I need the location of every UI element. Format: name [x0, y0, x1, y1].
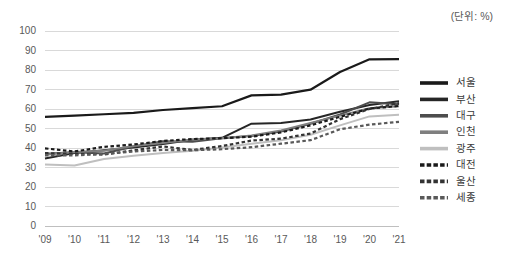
legend-label-대전[interactable]: 대전: [456, 158, 476, 170]
y-axis-tick-label: 80: [25, 64, 37, 75]
legend-label-세종[interactable]: 세종: [456, 191, 476, 203]
x-axis-tick-label: '10: [68, 234, 81, 245]
series-line-서울: [45, 59, 399, 117]
x-axis-tick-label: '11: [98, 234, 111, 245]
legend-label-부산[interactable]: 부산: [456, 93, 476, 105]
x-axis-tick-label: '14: [186, 234, 199, 245]
y-axis-ticks: 0102030405060708090100: [19, 25, 36, 231]
gridlines: [45, 31, 399, 226]
chart-canvas: 0102030405060708090100 '09'10'11'12'13'1…: [0, 0, 507, 265]
x-axis-tick-label: '18: [304, 234, 317, 245]
y-axis-tick-label: 70: [25, 84, 37, 95]
x-axis-tick-label: '20: [363, 234, 376, 245]
legend: 서울부산대구인천광주대전울산세종: [420, 76, 476, 203]
y-axis-tick-label: 90: [25, 45, 37, 56]
legend-label-인천[interactable]: 인천: [456, 125, 476, 137]
x-axis-tick-label: '09: [38, 234, 51, 245]
legend-label-대구[interactable]: 대구: [456, 109, 476, 121]
y-axis-tick-label: 30: [25, 162, 37, 173]
x-axis-ticks: '09'10'11'12'13'14'15'16'17'18'19'20'21: [38, 234, 405, 245]
series-line-광주: [45, 115, 399, 166]
line-chart: (단위: %) 0102030405060708090100 '09'10'11…: [0, 0, 507, 265]
y-axis-tick-label: 100: [19, 25, 36, 36]
legend-label-울산[interactable]: 울산: [456, 175, 476, 187]
x-axis-tick-label: '16: [245, 234, 258, 245]
series-lines: [45, 59, 399, 165]
legend-label-광주[interactable]: 광주: [456, 142, 476, 154]
y-axis-tick-label: 50: [25, 123, 37, 134]
y-axis-tick-label: 60: [25, 103, 37, 114]
x-axis-tick-label: '12: [127, 234, 140, 245]
y-axis-tick-label: 0: [30, 220, 36, 231]
x-axis-tick-label: '13: [156, 234, 169, 245]
y-axis-tick-label: 20: [25, 181, 37, 192]
y-axis-tick-label: 10: [25, 201, 37, 212]
legend-label-서울[interactable]: 서울: [456, 76, 476, 88]
y-axis-tick-label: 40: [25, 142, 37, 153]
x-axis-tick-label: '19: [333, 234, 346, 245]
x-axis-tick-label: '17: [274, 234, 287, 245]
x-axis-tick-label: '15: [215, 234, 228, 245]
x-axis-tick-label: '21: [392, 234, 405, 245]
